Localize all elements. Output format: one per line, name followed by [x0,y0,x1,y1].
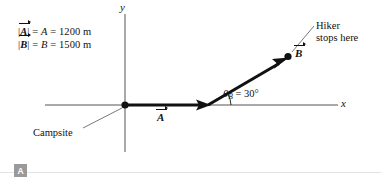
hiker-callout-line1: Hiker [316,20,358,32]
x-axis-label: x [341,98,346,110]
hiker-callout-label: Hiker stops here [316,20,358,44]
footer-divider [0,172,381,173]
magnitude-a-value: 1200 m [59,26,91,37]
legend-row-b: |B| = B = 1500 m [18,39,91,52]
magnitude-b-symbol: B [41,39,48,50]
vector-b-label: B [295,48,302,60]
vector-b-label-text: B [295,48,302,60]
angle-subscript: B [228,92,233,101]
campsite-point [121,101,128,108]
magnitude-a-symbol: A [41,26,48,37]
figure-panel: |A| = A = 1200 m |B| = B = 1500 m y x A … [0,0,381,185]
hiker-endpoint-point [284,53,291,60]
campsite-callout-label: Campsite [33,127,73,138]
magnitude-b-value: 1500 m [59,39,91,50]
vector-a-label-text: A [157,112,164,124]
vector-diagram: |A| = A = 1200 m |B| = B = 1500 m y x A … [0,0,381,160]
y-axis-label: y [120,2,125,14]
angle-equals: = [235,88,241,99]
figure-footer: A [0,160,381,185]
magnitude-legend: |A| = A = 1200 m |B| = B = 1500 m [18,26,91,51]
hiker-callout-line2: stops here [316,32,358,44]
angle-value: 30° [244,88,259,99]
figure-part-badge: A [14,164,27,177]
angle-annotation: θB = 30° [223,88,259,101]
campsite-leader-line [83,108,122,128]
vector-b-symbol: B [20,39,27,50]
vector-a-label: A [157,112,164,124]
